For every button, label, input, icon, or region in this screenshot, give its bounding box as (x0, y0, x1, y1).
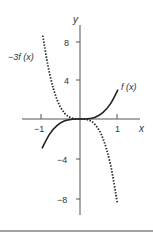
neg3f-curve-label: −3f (x) (8, 52, 34, 62)
y-axis-label: y (72, 14, 79, 25)
x-tick-label-1: 1 (115, 124, 120, 134)
function-graph: −1 1 8 4 −4 −8 y x f (x) −3f (x) (0, 0, 153, 235)
x-axis-label: x (138, 123, 145, 134)
y-tick-label-neg8: −8 (57, 195, 67, 205)
y-tick-label-8: 8 (64, 38, 69, 48)
y-tick-label-neg4: −4 (57, 155, 67, 165)
y-tick-label-4: 4 (64, 76, 69, 86)
x-tick-label-neg1: −1 (34, 124, 44, 134)
f-curve-label: f (x) (121, 82, 137, 92)
